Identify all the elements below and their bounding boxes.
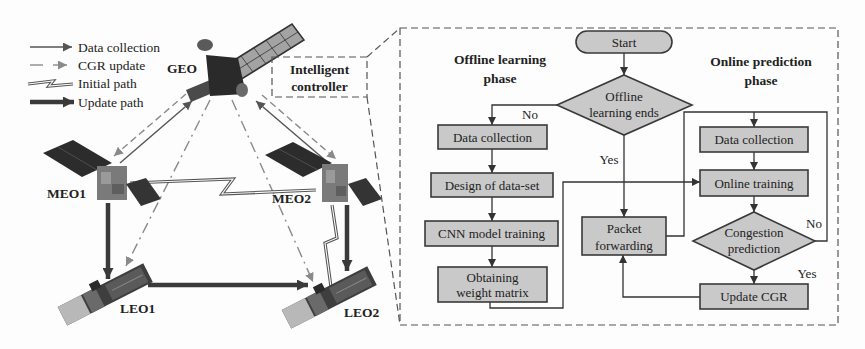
meo2-label: MEO2: [272, 191, 311, 206]
controller-label-line1: Intelligent: [290, 62, 350, 77]
legend-label: Update path: [78, 95, 144, 110]
legend-item-data-collection: Data collection: [30, 40, 160, 55]
offline-learning-decision: Offline learning ends: [557, 75, 692, 135]
decision-label-line2: learning ends: [589, 105, 659, 120]
box-label: Design of data-set: [445, 178, 540, 193]
initial-path-meo2-leo2: [325, 205, 337, 287]
geo-label: GEO: [167, 61, 197, 76]
online-data-collection-box: Data collection: [700, 127, 808, 152]
start-label: Start: [612, 35, 637, 50]
box-label: Data collection: [714, 132, 794, 147]
leo2-label: LEO2: [344, 305, 380, 320]
decision-label-line1: Congestion: [724, 225, 784, 240]
box-label: Data collection: [453, 130, 533, 145]
zoom-connector-top: [367, 28, 400, 57]
box-label: Update CGR: [720, 289, 788, 304]
offline-phase-title-line2: phase: [483, 71, 516, 86]
box-label-line2: forwarding: [595, 238, 653, 253]
flowchart-panel: Offline learning phase Online prediction…: [400, 28, 838, 325]
box-label-line2: weight matrix: [456, 285, 529, 300]
intelligent-controller: Intelligent controller: [272, 57, 367, 97]
update-cgr-box: Update CGR: [700, 284, 808, 309]
design-dataset-box: Design of data-set: [431, 173, 553, 197]
legend: Data collection CGR update Initial path …: [28, 40, 160, 110]
zoom-connector-bottom: [367, 97, 400, 325]
meo1-label: MEO1: [47, 186, 86, 201]
offline-phase-title-line1: Offline learning: [454, 52, 546, 67]
offline-decision-no-label: No: [522, 107, 538, 122]
satellite-network-diagram: Data collection CGR update Initial path …: [0, 0, 865, 349]
decision-label-line2: prediction: [728, 241, 781, 256]
legend-label: Initial path: [78, 76, 137, 91]
legend-label: CGR update: [78, 58, 145, 73]
online-phase-title-line2: phase: [744, 73, 777, 88]
congestion-prediction-decision: Congestion prediction: [693, 212, 815, 270]
box-label: Online training: [714, 176, 794, 191]
legend-item-initial-path: Initial path: [28, 76, 137, 91]
online-training-box: Online training: [700, 170, 808, 196]
controller-label-line2: controller: [291, 79, 348, 94]
legend-item-update-path: Update path: [30, 95, 144, 110]
legend-item-cgr-update: CGR update: [30, 58, 145, 73]
zigzag-line-icon: [28, 81, 73, 86]
box-label: CNN model training: [438, 226, 545, 241]
diagram-canvas: Data collection CGR update Initial path …: [0, 0, 865, 349]
packet-forwarding-box: Packet forwarding: [582, 217, 666, 255]
congestion-yes-label: Yes: [798, 266, 817, 281]
obtaining-weight-matrix-box: Obtaining weight matrix: [438, 267, 547, 302]
geo-satellite-icon: [186, 24, 304, 102]
box-label-line1: Obtaining: [467, 270, 519, 285]
leo1-label: LEO1: [120, 301, 156, 316]
decision-label-line1: Offline: [605, 89, 643, 104]
offline-data-collection-box: Data collection: [438, 125, 547, 149]
congestion-no-label: No: [806, 216, 822, 231]
start-node: Start: [576, 31, 672, 53]
legend-label: Data collection: [78, 40, 160, 55]
offline-decision-yes-label: Yes: [600, 152, 619, 167]
online-phase-title-line1: Online prediction: [710, 54, 812, 69]
box-label-line1: Packet: [607, 221, 642, 236]
cnn-model-training-box: CNN model training: [425, 221, 558, 246]
data-collection-arrow-meo1-geo: [120, 101, 192, 163]
